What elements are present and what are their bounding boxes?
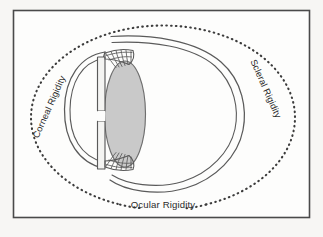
pupil-gap	[98, 111, 106, 121]
figure-frame	[14, 11, 310, 218]
label-ocular-rigidity: Ocular Rigidity	[131, 199, 196, 210]
lens	[105, 61, 146, 167]
figure-root: Ocular rigidity schematic of the human e…	[0, 0, 323, 237]
iris-upper	[98, 57, 106, 111]
iris-lower	[98, 121, 106, 169]
eye-diagram: Ocular rigidity schematic of the human e…	[0, 0, 323, 237]
